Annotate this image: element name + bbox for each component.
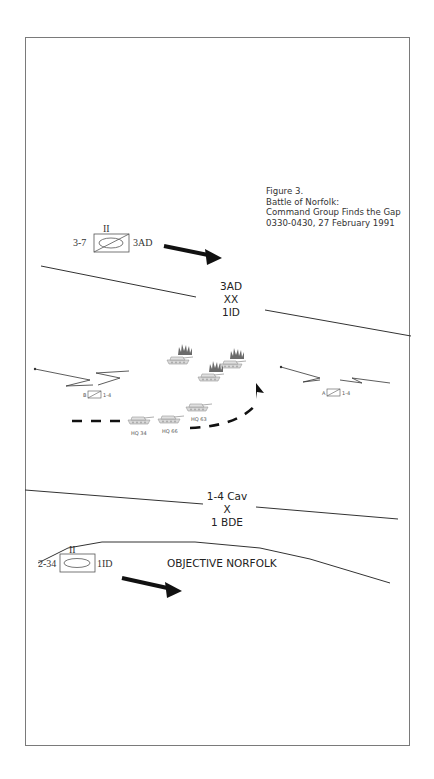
svg-text:1-4: 1-4 xyxy=(342,390,350,396)
unit-designation: 3-7 xyxy=(73,237,86,248)
svg-text:HQ 66: HQ 66 xyxy=(162,428,178,434)
boundary-echelon-symbol: XX xyxy=(198,293,264,306)
attack-arrow-south xyxy=(122,578,182,598)
friendly-vehicle-hq66: HQ 66 xyxy=(158,416,184,434)
figure-caption: Figure 3. Battle of Norfolk: Command Gro… xyxy=(266,186,401,228)
svg-text:1-4: 1-4 xyxy=(103,392,111,398)
unit-3-7-symbol: II 3-7 3AD xyxy=(73,223,152,252)
svg-text:1ID: 1ID xyxy=(97,558,113,569)
boundary-unit-north: 1-4 Cav xyxy=(194,490,260,503)
battle-map: II 3-7 3AD B 1-4 A 1-4 xyxy=(0,0,434,779)
caption-line: Battle of Norfolk: xyxy=(266,197,401,208)
friendly-vehicle-hq34: HQ 34 xyxy=(128,417,154,436)
svg-text:2-34: 2-34 xyxy=(38,558,56,569)
screen-line-left: B 1-4 xyxy=(34,368,129,398)
echelon-label: II xyxy=(103,223,110,234)
boundary-unit-south: 1 BDE xyxy=(194,516,260,529)
boundary-unit-north: 3AD xyxy=(198,280,264,293)
caption-line: Figure 3. xyxy=(266,186,401,197)
svg-text:HQ 63: HQ 63 xyxy=(191,416,207,422)
svg-text:A: A xyxy=(322,390,326,396)
objective-label: OBJECTIVE NORFOLK xyxy=(167,557,277,569)
boundary-echelon-symbol: X xyxy=(194,503,260,516)
destroyed-enemy-tank xyxy=(198,361,224,381)
friendly-vehicle-hq63: HQ 63 xyxy=(186,404,212,422)
unit-2-34-symbol: II 2-34 1ID xyxy=(38,544,113,572)
caption-line: Command Group Finds the Gap xyxy=(266,207,401,218)
division-boundary-label: 3AD XX 1ID xyxy=(198,280,264,319)
svg-text:II: II xyxy=(69,544,76,555)
attack-arrow-north xyxy=(164,246,222,265)
brigade-boundary-label: 1-4 Cav X 1 BDE xyxy=(194,490,260,529)
destroyed-enemy-tank xyxy=(220,348,246,368)
svg-text:HQ 34: HQ 34 xyxy=(131,430,147,436)
svg-text:B: B xyxy=(83,392,87,398)
destroyed-enemy-tank xyxy=(167,344,193,364)
boundary-unit-south: 1ID xyxy=(198,306,264,319)
caption-line: 0330-0430, 27 February 1991 xyxy=(266,218,401,229)
unit-parent: 3AD xyxy=(133,237,152,248)
screen-line-right: A 1-4 xyxy=(280,366,390,396)
